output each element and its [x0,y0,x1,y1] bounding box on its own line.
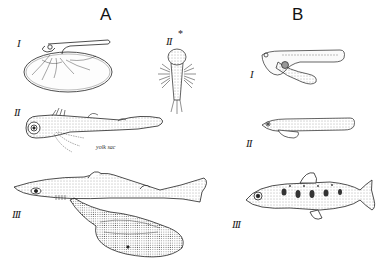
panel-label-a: A [100,5,111,25]
asterisk-marker: * [178,28,182,39]
b2-larva-drawing [262,118,355,138]
a1-yolk-embryo-drawing [24,40,112,92]
panel-label-b: B [292,5,303,25]
stage-label-b2: II [246,137,251,149]
a3-shark-drawing [14,172,207,257]
stage-label-b3: III [232,218,240,230]
yolk-sac-annotation: yolk sac [96,144,116,150]
illustration-canvas [0,0,391,266]
stage-label-a2-dorsal: II [166,35,171,47]
b1-larva-drawing [262,50,345,84]
b3-young-fish-drawing [246,173,375,219]
stage-label-a1: I [17,37,20,49]
a2-dorsal-embryo-drawing [158,49,196,114]
stage-label-a2-lateral: II [14,106,19,118]
stage-label-b1: I [250,68,253,80]
stage-label-a3: III [12,208,20,220]
a2-lateral-embryo-drawing [26,108,163,152]
